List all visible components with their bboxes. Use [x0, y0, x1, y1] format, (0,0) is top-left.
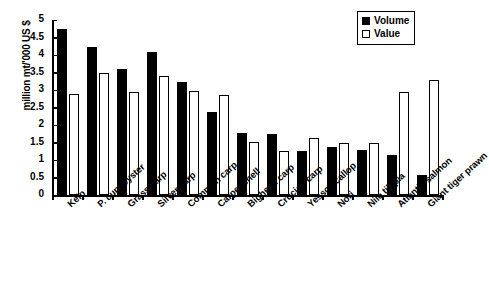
y-tick-label: 5 [38, 13, 44, 24]
plot-area: 00.511.522.533.544.55 [52, 20, 442, 195]
y-tick-label: 0 [38, 188, 44, 199]
y-tick-mark [52, 20, 57, 22]
bar-value [369, 143, 380, 195]
y-tick-label: 3.5 [30, 66, 44, 77]
y-tick-label: 1 [38, 153, 44, 164]
y-tick-label: 0.5 [30, 171, 44, 182]
y-tick-label: 3 [38, 83, 44, 94]
legend-item-volume: Volume [362, 15, 409, 27]
y-tick-label: 2.5 [30, 101, 44, 112]
legend-label-value: Value [374, 28, 400, 40]
y-tick-label: 4.5 [30, 31, 44, 42]
bar-value [99, 73, 110, 196]
legend-item-value: Value [362, 28, 409, 40]
legend-label-volume: Volume [374, 15, 409, 27]
bar-value [69, 94, 80, 195]
y-tick-label: 2 [38, 118, 44, 129]
bar-volume [57, 29, 68, 195]
chart-legend: Volume Value [357, 11, 415, 45]
y-tick-label: 4 [38, 48, 44, 59]
bar-volume [357, 150, 368, 195]
x-tick-mark [52, 195, 54, 200]
bar-volume [87, 47, 98, 195]
y-tick-label: 1.5 [30, 136, 44, 147]
filled-square-icon [362, 17, 370, 25]
hollow-square-icon [362, 30, 370, 38]
